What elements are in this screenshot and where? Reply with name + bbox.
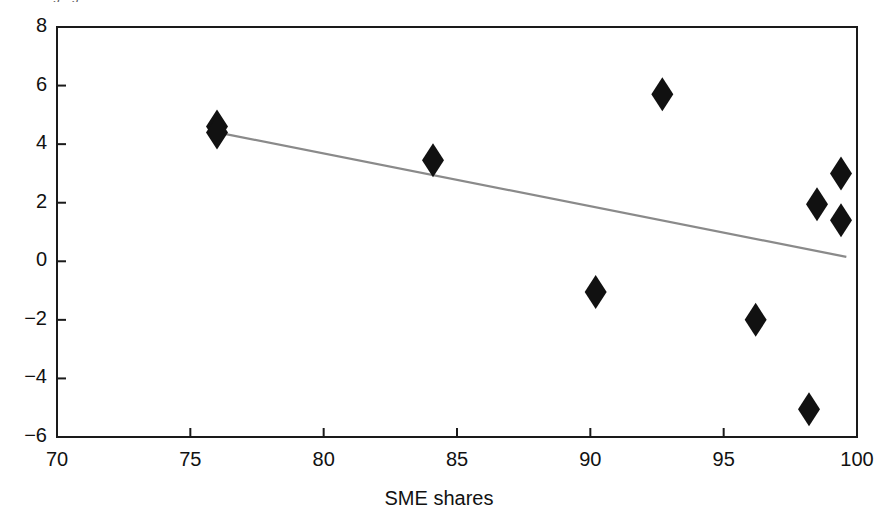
tick-marks — [57, 27, 857, 437]
y-tick-label: −4 — [3, 365, 47, 388]
x-tick-label: 100 — [827, 448, 878, 471]
axes-frame — [57, 27, 857, 437]
x-axis-title: SME shares — [0, 487, 878, 510]
x-tick-label: 95 — [694, 448, 754, 471]
y-tick-label: 6 — [3, 73, 47, 96]
x-tick-label: 75 — [160, 448, 220, 471]
y-tick-label: −6 — [3, 424, 47, 447]
x-tick-label: 80 — [294, 448, 354, 471]
y-tick-label: 2 — [3, 190, 47, 213]
trendline — [217, 132, 846, 256]
data-points — [206, 77, 852, 426]
y-tick-label: 0 — [3, 248, 47, 271]
scatter-chart-figure: Average growth 86420−2−4−6 7075808590951… — [0, 0, 878, 521]
y-tick-label: 4 — [3, 131, 47, 154]
x-tick-label: 85 — [427, 448, 487, 471]
y-tick-label: 8 — [3, 14, 47, 37]
y-tick-label: −2 — [3, 307, 47, 330]
plot-area-svg — [0, 0, 878, 521]
x-tick-label: 70 — [27, 448, 87, 471]
x-tick-label: 90 — [560, 448, 620, 471]
